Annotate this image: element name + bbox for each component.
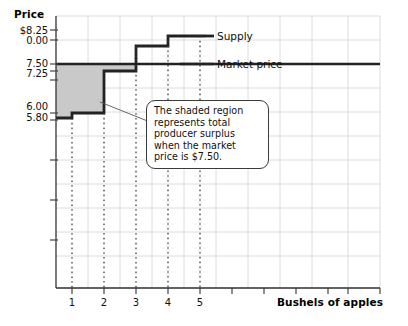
- producer-surplus-callout: The shaded region represents total produ…: [146, 100, 269, 169]
- supply-series-label: Supply: [217, 30, 253, 42]
- producer-surplus-chart: Price $8.25 0.00 7.50 7.25 6.00 5.80 1 2…: [0, 0, 408, 326]
- y-tick-label-7-25: 7.25: [6, 68, 48, 79]
- x-tick-label-2: 2: [96, 297, 112, 308]
- x-tick-label-3: 3: [128, 297, 144, 308]
- x-tick-label-5: 5: [192, 297, 208, 308]
- market-price-series-label: Market price: [217, 58, 283, 70]
- x-axis-ticks: [72, 288, 380, 294]
- y-tick-label-8-00: 0.00: [6, 35, 48, 46]
- y-tick-label-5-80: 5.80: [6, 112, 48, 123]
- x-axis-title: Bushels of apples: [277, 296, 383, 308]
- x-tick-label-1: 1: [64, 297, 80, 308]
- x-tick-label-4: 4: [160, 297, 176, 308]
- callout-text: The shaded region represents total produ…: [154, 105, 262, 163]
- y-tick-label-6-00: 6.00: [6, 101, 48, 112]
- y-axis-title: Price: [14, 8, 44, 20]
